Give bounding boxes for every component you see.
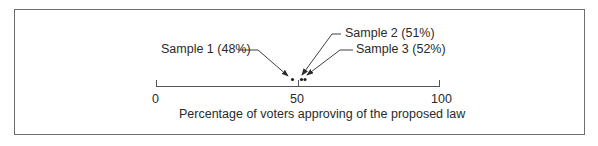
annotation-sample-3: Sample 3 (52%) [356, 42, 446, 56]
point-sample-1 [291, 78, 294, 81]
number-line-diagram [0, 0, 598, 146]
annotation-arrows [238, 34, 353, 76]
annotation-sample-1: Sample 1 (48%) [161, 42, 251, 56]
point-sample-2 [300, 78, 303, 81]
tick-label-100: 100 [431, 92, 452, 106]
tick-label-0: 0 [152, 92, 159, 106]
x-axis-title: Percentage of voters approving of the pr… [179, 107, 465, 121]
point-sample-3 [303, 78, 306, 81]
tick-label-50: 50 [290, 92, 304, 106]
x-axis [156, 80, 440, 87]
annotation-sample-2: Sample 2 (51%) [345, 26, 435, 40]
